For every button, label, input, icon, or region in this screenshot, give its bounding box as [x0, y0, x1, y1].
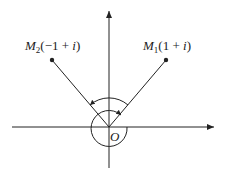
label-m2: M2(−1 + i) [24, 38, 80, 55]
point-m1 [164, 58, 168, 62]
label-m1: M1(1 + i) [142, 38, 191, 55]
ray-om2 [52, 60, 109, 127]
point-m2 [50, 58, 54, 62]
complex-plane-diagram: M2(−1 + i) M1(1 + i) O [0, 0, 226, 173]
origin-label: O [110, 129, 120, 144]
ray-om1 [109, 60, 166, 127]
